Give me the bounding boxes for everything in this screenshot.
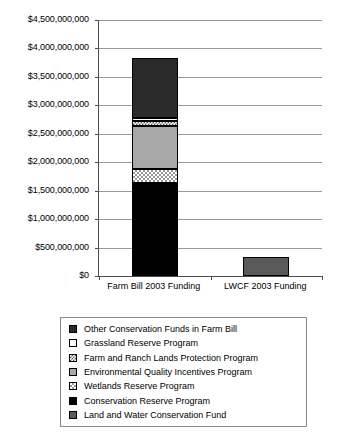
- legend-item: Other Conservation Funds in Farm Bill: [69, 322, 300, 336]
- x-axis-labels: Farm Bill 2003 FundingLWCF 2003 Funding: [98, 281, 321, 301]
- bar-segment: [132, 118, 178, 121]
- x-axis-category-label: LWCF 2003 Funding: [205, 281, 325, 292]
- legend-swatch-icon: [69, 354, 77, 362]
- legend-item: Grassland Reserve Program: [69, 336, 300, 350]
- x-axis-tick-mark: [322, 276, 323, 280]
- gridline: [99, 20, 322, 21]
- plot-container: $4,500,000,000$4,000,000,000$3,500,000,0…: [0, 0, 358, 305]
- legend-item-label: Farm and Ranch Lands Protection Program: [84, 353, 258, 363]
- y-axis-tick-label: $1,000,000,000: [28, 214, 89, 223]
- bar-segment: [132, 169, 178, 183]
- stacked-bar-chart: $4,500,000,000$4,000,000,000$3,500,000,0…: [0, 0, 358, 435]
- legend-item-label: Wetlands Reserve Program: [84, 381, 194, 391]
- legend-item: Farm and Ranch Lands Protection Program: [69, 351, 300, 365]
- legend-item-label: Conservation Reserve Program: [84, 396, 210, 406]
- bar-column: [243, 257, 289, 276]
- x-axis-tick-mark: [211, 276, 212, 280]
- y-axis-tick-mark: [95, 134, 99, 135]
- legend-item-label: Grassland Reserve Program: [84, 338, 198, 348]
- y-axis-tick-mark: [95, 105, 99, 106]
- x-axis-category-label: Farm Bill 2003 Funding: [94, 281, 214, 292]
- legend-item: Land and Water Conservation Fund: [69, 408, 300, 422]
- legend-item-label: Environmental Quality Incentives Program: [84, 367, 252, 377]
- y-axis-tick-label: $3,000,000,000: [28, 100, 89, 109]
- legend-item: Wetlands Reserve Program: [69, 379, 300, 393]
- chart-legend: Other Conservation Funds in Farm BillGra…: [60, 317, 307, 427]
- bar-segment: [132, 126, 178, 169]
- y-axis-tick-mark: [95, 48, 99, 49]
- plot-area: [98, 20, 322, 277]
- bar-segment: [243, 257, 289, 276]
- bar-segment: [132, 121, 178, 126]
- bar-segment: [132, 183, 178, 276]
- y-axis-labels: $4,500,000,000$4,000,000,000$3,500,000,0…: [0, 0, 96, 305]
- y-axis-tick-mark: [95, 20, 99, 21]
- gridline: [99, 48, 322, 49]
- y-axis-tick-label: $4,500,000,000: [28, 15, 89, 24]
- y-axis-tick-mark: [95, 219, 99, 220]
- y-axis-tick-label: $4,000,000,000: [28, 43, 89, 52]
- y-axis-tick-label: $2,500,000,000: [28, 129, 89, 138]
- y-axis-tick-mark: [95, 191, 99, 192]
- legend-swatch-icon: [69, 325, 77, 333]
- y-axis-tick-mark: [95, 248, 99, 249]
- legend-swatch-icon: [69, 382, 77, 390]
- legend-rows: Other Conservation Funds in Farm BillGra…: [69, 322, 300, 422]
- legend-item: Environmental Quality Incentives Program: [69, 365, 300, 379]
- bar-segment: [132, 58, 178, 118]
- legend-item-label: Other Conservation Funds in Farm Bill: [84, 324, 237, 334]
- y-axis-tick-label: $2,000,000,000: [28, 157, 89, 166]
- y-axis-tick-label: $1,500,000,000: [28, 186, 89, 195]
- legend-swatch-icon: [69, 397, 77, 405]
- y-axis-tick-label: $500,000,000: [35, 243, 89, 252]
- y-axis-tick-label: $3,500,000,000: [28, 72, 89, 81]
- legend-swatch-icon: [69, 368, 77, 376]
- y-axis-tick-mark: [95, 162, 99, 163]
- bar-column: [132, 58, 178, 276]
- legend-swatch-icon: [69, 339, 77, 347]
- legend-item: Conservation Reserve Program: [69, 393, 300, 407]
- y-axis-tick-label: $0: [79, 271, 89, 280]
- legend-item-label: Land and Water Conservation Fund: [84, 410, 226, 420]
- legend-swatch-icon: [69, 411, 77, 419]
- y-axis-tick-mark: [95, 77, 99, 78]
- x-axis-tick-mark: [99, 276, 100, 280]
